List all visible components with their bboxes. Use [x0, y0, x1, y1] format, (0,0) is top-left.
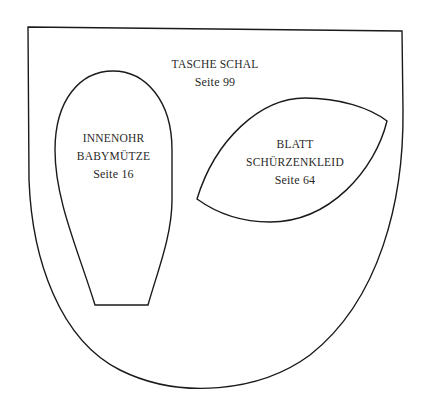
blatt-page: Seite 64 — [235, 171, 355, 189]
tasche-schal-page: Seite 99 — [150, 73, 280, 91]
innenohr-title-line1: INNENOHR — [55, 129, 172, 147]
innenohr-title-line2: BABYMÜTZE — [55, 147, 172, 165]
blatt-title-line2: SCHÜRZENKLEID — [235, 153, 355, 171]
blatt-label: BLATT SCHÜRZENKLEID Seite 64 — [235, 135, 355, 189]
tasche-schal-label: TASCHE SCHAL Seite 99 — [150, 55, 280, 91]
innenohr-page: Seite 16 — [55, 165, 172, 183]
blatt-title-line1: BLATT — [235, 135, 355, 153]
innenohr-outline — [55, 71, 172, 305]
innenohr-label: INNENOHR BABYMÜTZE Seite 16 — [55, 129, 172, 183]
tasche-schal-title: TASCHE SCHAL — [150, 55, 280, 73]
